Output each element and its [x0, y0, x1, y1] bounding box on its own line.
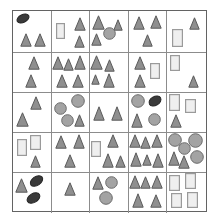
triangle-shape [151, 134, 163, 148]
rect-shape [91, 141, 101, 157]
triangle-shape [56, 74, 68, 88]
triangle-shape [134, 74, 146, 88]
triangle-shape [152, 153, 164, 168]
grid-row [13, 11, 206, 53]
grid-cell-r3-c1 [13, 93, 52, 133]
grid-cell-r3-c3 [90, 93, 129, 133]
triangle-shape [64, 154, 76, 168]
triangle-shape [142, 34, 153, 47]
grid-cell-r5-c3 [90, 173, 129, 213]
grid-row [13, 133, 206, 173]
triangle-shape [189, 17, 200, 30]
triangle-shape [55, 135, 67, 149]
grid-cell-r1-c1 [13, 11, 52, 53]
grid-surface [12, 10, 207, 212]
triangle-shape [25, 74, 37, 88]
triangle-shape [142, 154, 152, 166]
grid-cell-r4-c3 [90, 133, 129, 173]
rect-shape [185, 173, 196, 189]
triangle-shape [131, 113, 143, 128]
grid-cell-r5-c2 [52, 173, 91, 213]
triangle-shape [74, 35, 85, 48]
triangle-shape [30, 96, 42, 110]
triangle-shape [103, 73, 115, 88]
triangle-shape [73, 134, 85, 149]
grid-cell-r1-c4 [129, 11, 168, 53]
shape-grid-image [0, 0, 217, 221]
ellipse-shape [16, 14, 30, 23]
grid-cell-r4-c5 [167, 133, 206, 173]
triangle-shape [91, 33, 102, 46]
circle-shape [103, 27, 116, 40]
circle-shape [99, 191, 113, 205]
triangle-shape [34, 33, 46, 47]
rect-shape [56, 23, 65, 39]
triangle-shape [150, 194, 162, 208]
triangle-shape [140, 176, 151, 189]
circle-shape [105, 176, 118, 189]
triangle-shape [188, 75, 199, 88]
triangle-shape [178, 155, 190, 169]
grid-cell-r1-c3 [90, 11, 129, 53]
grid-cell-r2-c3 [90, 53, 129, 93]
triangle-shape [132, 193, 144, 208]
triangle-shape [170, 114, 182, 128]
triangle-shape [134, 56, 146, 70]
grid-cell-r3-c2 [52, 93, 91, 133]
circle-shape [190, 150, 204, 164]
rect-shape [171, 193, 182, 208]
ellipse-shape [29, 176, 44, 186]
triangle-shape [104, 59, 115, 72]
grid-cell-r4-c4 [129, 133, 168, 173]
grid-row [13, 93, 206, 133]
rect-shape [150, 63, 160, 79]
triangle-shape [64, 182, 76, 196]
rect-shape [170, 55, 180, 71]
grid-cell-r2-c2 [52, 53, 91, 93]
triangle-shape [92, 176, 104, 190]
triangle-shape [16, 112, 29, 127]
circle-shape [71, 94, 85, 108]
grid-cell-r4-c1 [13, 133, 52, 173]
ellipse-shape [148, 96, 162, 106]
grid-cell-r5-c4 [129, 173, 168, 213]
grid-cell-r3-c4 [129, 93, 168, 133]
grid-cell-r4-c2 [52, 133, 91, 173]
grid-cell-r5-c1 [13, 173, 52, 213]
circle-shape [131, 94, 145, 108]
triangle-shape [72, 74, 84, 88]
grid-cell-r2-c1 [13, 53, 52, 93]
triangle-shape [91, 74, 100, 85]
ellipse-shape [26, 193, 41, 203]
triangle-shape [63, 58, 74, 71]
grid-row [13, 53, 206, 93]
triangle-shape [115, 155, 126, 168]
triangle-shape [151, 175, 163, 189]
grid-cell-r2-c4 [129, 53, 168, 93]
grid-cell-r3-c5 [167, 93, 206, 133]
triangle-shape [28, 56, 40, 70]
triangle-shape [140, 136, 151, 149]
triangle-shape [93, 106, 105, 121]
rect-shape [17, 139, 27, 156]
triangle-shape [107, 134, 119, 148]
rect-shape [169, 94, 180, 111]
triangle-shape [102, 153, 114, 168]
triangle-shape [74, 17, 86, 31]
grid-cell-r1-c5 [167, 11, 206, 53]
triangle-shape [133, 16, 145, 30]
triangle-shape [30, 155, 41, 168]
triangle-shape [15, 178, 28, 193]
triangle-shape [74, 55, 86, 70]
rect-shape [185, 99, 196, 113]
triangle-shape [20, 33, 32, 47]
circle-shape [61, 114, 74, 127]
rect-shape [30, 135, 41, 150]
circle-shape [148, 113, 161, 126]
triangle-shape [150, 15, 162, 29]
grid-row [13, 173, 206, 213]
triangle-shape [130, 152, 142, 167]
triangle-shape [111, 106, 123, 121]
grid-cell-r5-c5 [167, 173, 206, 213]
grid-cell-r2-c5 [167, 53, 206, 93]
